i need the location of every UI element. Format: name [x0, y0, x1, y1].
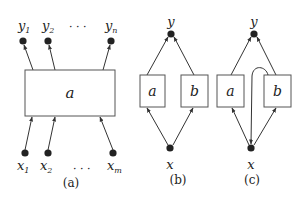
input-node-1 [21, 149, 28, 156]
output-ellipsis: · · · [69, 21, 86, 34]
panel-b: y a b x (b) [140, 14, 208, 187]
caption-a: (a) [63, 176, 80, 190]
output-label-y1: y1 [17, 18, 30, 35]
caption-c: (c) [244, 173, 260, 187]
edge-x-to-b-b [173, 108, 193, 145]
box-b-label-b: b [190, 83, 199, 99]
output-node-1 [19, 37, 26, 44]
caption-b: (b) [169, 173, 186, 187]
edge-a-to-y-c [231, 37, 251, 75]
edge-b-to-y-b [174, 37, 194, 75]
output-node-2 [44, 37, 51, 44]
bottom-node-label-c: x [247, 157, 255, 172]
input-ellipsis: · · · [73, 163, 90, 176]
top-node-c [250, 30, 257, 37]
edge-a-to-yn [103, 45, 110, 70]
bottom-node-b [166, 144, 173, 151]
diagram-canvas: y1 y2 · · · yn a x1 x2 · · · xm (a) y [0, 0, 306, 199]
top-node-label-c: y [249, 14, 258, 29]
edge-x-to-b-c [254, 108, 276, 145]
edge-x-to-a-b [147, 108, 168, 145]
output-node-n [107, 37, 114, 44]
edge-a-to-y2 [49, 45, 55, 70]
top-node-label-b: y [166, 14, 175, 29]
edge-a-to-y1 [24, 45, 33, 70]
input-node-2 [44, 149, 51, 156]
input-label-xm: xm [107, 158, 122, 175]
top-node-b [167, 30, 174, 37]
input-node-m [109, 149, 116, 156]
edge-x2-to-a [48, 117, 55, 150]
box-a-label: a [66, 84, 75, 102]
box-a-label-c: a [226, 83, 234, 99]
edge-xm-to-a [100, 117, 113, 150]
panel-c: y a b x (c) [217, 14, 291, 187]
input-label-x2: x2 [40, 158, 52, 175]
edge-x-to-a-c [232, 108, 249, 145]
edge-x1-to-a [25, 117, 32, 150]
box-a-label-b: a [148, 83, 156, 99]
edge-b-to-y-c [257, 37, 276, 75]
box-b-label-c: b [273, 83, 282, 99]
edge-a-to-y-b [147, 37, 168, 75]
bottom-node-label-b: x [166, 157, 174, 172]
panel-a: y1 y2 · · · yn a x1 x2 · · · xm (a) [17, 18, 122, 190]
input-label-x1: x1 [17, 158, 29, 175]
output-label-y2: y2 [41, 18, 54, 35]
bottom-node-c [247, 144, 254, 151]
output-label-yn: yn [104, 18, 118, 35]
